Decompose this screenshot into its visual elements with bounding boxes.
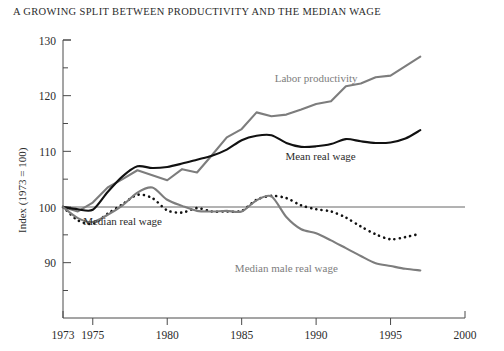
series-label: Mean real wage	[285, 150, 355, 162]
series-label: Labor productivity	[275, 72, 358, 84]
series-label: Median male real wage	[235, 262, 338, 274]
series-line	[63, 57, 420, 212]
x-tick-label: 1985	[230, 329, 253, 341]
y-axis-title: Index (1973 = 100)	[16, 147, 29, 233]
series-line	[63, 187, 420, 270]
y-tick-label: 110	[39, 146, 56, 158]
series-lines	[63, 57, 420, 271]
y-tick-label: 130	[39, 35, 57, 47]
series-line	[63, 130, 420, 211]
x-tick-label: 1975	[81, 329, 104, 341]
y-axis-title-text: Index (1973 = 100)	[16, 147, 29, 233]
x-tick-label: 2000	[454, 329, 477, 341]
x-tick-label: 1973	[52, 329, 75, 341]
y-tick-label: 100	[39, 202, 57, 214]
chart-plot-area: 90100110120130 1973197519801985199019952…	[0, 0, 504, 351]
series-label: Median real wage	[83, 215, 162, 227]
series-labels: Labor productivityMean real wageMedian r…	[83, 72, 358, 274]
x-tick-label: 1980	[156, 329, 179, 341]
chart-figure: A GROWING SPLIT BETWEEN PRODUCTIVITY AND…	[0, 0, 504, 351]
y-tick-label: 90	[45, 257, 57, 269]
y-axis: 90100110120130	[39, 35, 71, 319]
x-axis: 1973197519801985199019952000	[52, 311, 477, 341]
x-tick-label: 1990	[305, 329, 328, 341]
y-tick-label: 120	[39, 90, 57, 102]
x-tick-label: 1995	[379, 329, 402, 341]
